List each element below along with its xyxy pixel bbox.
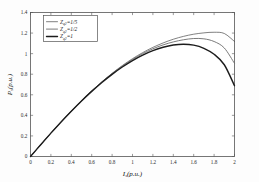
x-tick-label: 1.4 (170, 159, 177, 165)
x-tick-label: 0.2 (48, 159, 55, 165)
chart-canvas: 00.20.40.60.811.21.41.61.82 00.20.40.60.… (0, 0, 259, 182)
x-tick-label: 1 (131, 159, 134, 165)
y-tick-label: 0.2 (21, 133, 28, 139)
x-axis-title: Is(p.u.) (122, 170, 143, 179)
y-axis-title: Ps(p.u.) (6, 73, 15, 96)
y-tick-label: 1.4 (21, 9, 28, 15)
y-tick-label: 0.4 (21, 112, 28, 118)
x-tick-label: 0 (29, 159, 32, 165)
x-tick-label: 2 (233, 159, 236, 165)
y-tick-label: 0 (25, 153, 28, 159)
x-tick-label: 0.6 (88, 159, 95, 165)
figure-container: 00.20.40.60.811.21.41.61.82 00.20.40.60.… (0, 0, 259, 182)
x-tick-label: 0.4 (68, 159, 75, 165)
chart-legend: Zq2=1/5Zq2=1/2Zq2=1 (44, 16, 98, 42)
y-tick-label: 1.2 (21, 30, 28, 36)
x-tick-label: 1.2 (150, 159, 157, 165)
y-tick-label: 1 (25, 51, 28, 57)
x-tick-label: 1.8 (211, 159, 218, 165)
x-tick-label: 0.8 (109, 159, 116, 165)
y-tick-label: 0.6 (21, 92, 28, 98)
y-tick-label: 0.8 (21, 71, 28, 77)
x-tick-label: 1.6 (190, 159, 197, 165)
